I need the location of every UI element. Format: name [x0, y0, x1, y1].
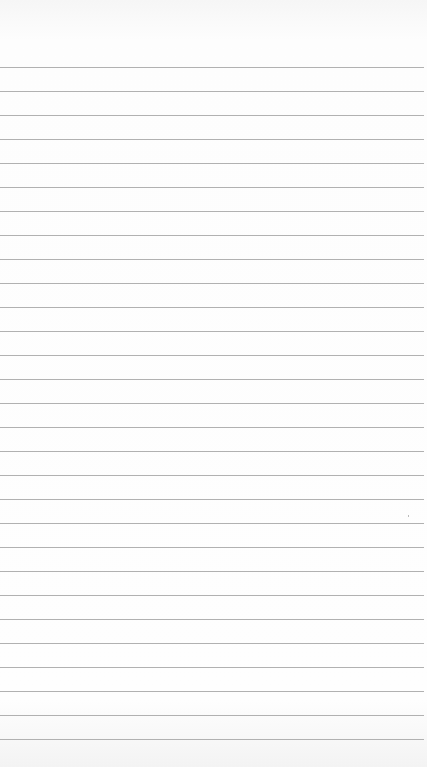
ruled-line [0, 259, 424, 260]
ruled-line [0, 379, 424, 380]
ruled-line [0, 523, 424, 524]
ruled-line [0, 499, 424, 500]
ruled-line [0, 115, 424, 116]
ruled-line [0, 235, 424, 236]
ruled-line [0, 715, 424, 716]
ruled-line [0, 355, 424, 356]
ruled-line [0, 91, 424, 92]
lined-paper [0, 0, 427, 767]
ruled-line [0, 451, 424, 452]
ruled-line [0, 667, 424, 668]
ruled-line [0, 547, 424, 548]
ruled-line [0, 283, 424, 284]
ruled-line [0, 307, 424, 308]
ruled-line [0, 139, 424, 140]
ruled-line [0, 739, 424, 740]
ruled-line [0, 187, 424, 188]
ruled-line [0, 643, 424, 644]
ruled-line [0, 67, 424, 68]
paper-speck [408, 515, 409, 517]
ruled-line [0, 403, 424, 404]
ruled-line [0, 571, 424, 572]
ruled-line [0, 619, 424, 620]
ruled-line [0, 427, 424, 428]
ruled-line [0, 595, 424, 596]
ruled-line [0, 163, 424, 164]
ruled-line [0, 211, 424, 212]
ruled-line [0, 475, 424, 476]
ruled-line [0, 691, 424, 692]
ruled-line [0, 331, 424, 332]
